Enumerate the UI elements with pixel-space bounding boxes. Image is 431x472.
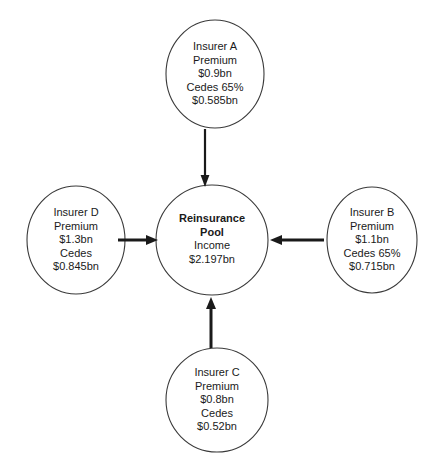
diagram-graphics (0, 0, 431, 472)
node-shape-insurer-d (27, 186, 125, 294)
node-shape-insurer-b (327, 187, 417, 293)
arrow-c-to-pool (206, 297, 216, 348)
node-shape-reinsurance-pool (156, 185, 268, 295)
arrow-a-to-pool (201, 129, 210, 187)
node-shape-insurer-c (166, 348, 268, 452)
diagram-canvas: Insurer A Premium $0.9bn Cedes 65% $0.58… (0, 0, 431, 472)
node-shape-insurer-a (166, 20, 264, 128)
arrow-b-to-pool (270, 235, 324, 245)
